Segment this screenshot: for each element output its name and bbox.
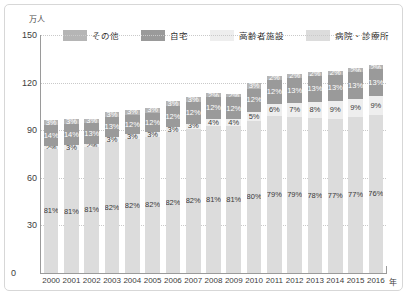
x-tick-2016: 2016 [366,276,387,285]
bar-value-label: 6% [269,106,280,114]
bar-segment-2007-2[interactable]: 12% [186,102,201,123]
bar-value-label: 12% [247,96,262,104]
bar-value-label: 12% [206,104,221,112]
bar-segment-2010-0[interactable]: 80% [247,121,262,273]
x-axis-end-tick [386,266,387,274]
y-tick-90: 90 [7,125,37,135]
bar-column-2010[interactable]: 80%5%12%3% [247,83,262,273]
bar-column-2004[interactable]: 82%3%12%3% [125,110,140,273]
bar-value-label: 81% [44,207,59,215]
bar-column-2011[interactable]: 79%6%12%2% [267,74,282,273]
bar-value-label: 13% [308,85,323,93]
bar-segment-2009-1[interactable]: 4% [226,119,241,126]
bar-segment-2003-0[interactable]: 82% [105,142,120,273]
bar-column-2000[interactable]: 81%2%14%3% [44,120,59,273]
bar-segment-2012-2[interactable]: 13% [287,78,302,104]
bar-segment-2007-0[interactable]: 82% [186,129,201,273]
bar-segment-2013-1[interactable]: 8% [308,102,323,118]
x-tick-2006: 2006 [163,276,184,285]
bar-column-2007[interactable]: 82%3%12%3% [186,97,201,273]
bar-value-label: 13% [105,123,120,131]
plot-area: 81%2%14%3%81%3%14%3%81%2%13%3%82%3%13%3%… [41,35,386,273]
bar-segment-2005-2[interactable]: 12% [145,113,160,133]
x-tick-2005: 2005 [142,276,163,285]
bar-segment-2006-0[interactable]: 82% [166,132,181,273]
bar-segment-2001-2[interactable]: 14% [64,124,79,145]
bar-column-2015[interactable]: 77%9%13%2% [348,68,363,273]
bar-column-2012[interactable]: 79%7%13%2% [287,74,302,273]
bar-segment-2003-2[interactable]: 13% [105,117,120,138]
bar-segment-2011-1[interactable]: 6% [267,104,282,116]
bar-segment-2008-1[interactable]: 4% [206,119,221,126]
bar-column-2008[interactable]: 81%4%12%2% [206,92,221,273]
bar-segment-2002-0[interactable]: 81% [84,147,99,273]
bar-column-2002[interactable]: 81%2%13%3% [84,117,99,273]
bar-value-label: 5% [249,113,260,121]
bar-value-label: 80% [247,193,262,201]
bar-segment-2010-1[interactable]: 5% [247,112,262,121]
bar-segment-2005-0[interactable]: 82% [145,137,160,273]
bar-segment-2016-1[interactable]: 9% [369,96,384,115]
bar-value-label: 13% [287,87,302,95]
bar-value-label: 14% [44,132,59,140]
bar-segment-2000-0[interactable]: 81% [44,149,59,273]
bar-segment-2012-1[interactable]: 7% [287,103,302,117]
bar-column-2003[interactable]: 82%3%13%3% [105,112,120,273]
bar-segment-2011-2[interactable]: 12% [267,80,282,104]
bar-value-label: 13% [84,130,99,138]
bar-segment-2014-2[interactable]: 13% [328,75,343,101]
x-tick-2013: 2013 [305,276,326,285]
y-axis-unit-label: 万人 [29,13,45,24]
bar-column-2014[interactable]: 77%9%13%2% [328,71,343,273]
x-tick-2002: 2002 [81,276,102,285]
bar-value-label: 12% [267,88,282,96]
x-tick-2012: 2012 [284,276,305,285]
bar-value-label: 13% [369,79,384,87]
bar-segment-2004-2[interactable]: 12% [125,115,140,135]
bar-segment-2014-1[interactable]: 9% [328,101,343,119]
bar-segment-2009-2[interactable]: 12% [226,97,241,119]
bar-column-2009[interactable]: 81%4%12%2% [226,92,241,273]
bar-segment-2016-2[interactable]: 13% [369,69,384,96]
bar-segment-2000-2[interactable]: 14% [44,125,59,146]
bar-value-label: 13% [328,84,343,92]
bar-value-label: 81% [84,206,99,214]
bar-segment-2015-0[interactable]: 77% [348,117,363,273]
bar-value-label: 13% [348,82,363,90]
bar-segment-2015-2[interactable]: 13% [348,72,363,98]
x-tick-2003: 2003 [102,276,123,285]
bar-segment-2008-0[interactable]: 81% [206,126,221,273]
bar-value-label: 14% [64,131,79,139]
bar-segment-2008-2[interactable]: 12% [206,97,221,119]
bar-segment-2009-0[interactable]: 81% [226,126,241,273]
bar-segment-2012-0[interactable]: 79% [287,117,302,273]
bar-column-2005[interactable]: 82%3%12%3% [145,108,160,273]
bar-segment-2002-2[interactable]: 13% [84,123,99,143]
bar-segment-2014-0[interactable]: 77% [328,119,343,273]
y-tick-120: 120 [7,78,37,88]
bar-value-label: 78% [308,192,323,200]
bar-segment-2015-1[interactable]: 9% [348,99,363,117]
bar-column-2016[interactable]: 76%9%13%2% [369,65,384,273]
bar-value-label: 81% [226,196,241,204]
bar-column-2006[interactable]: 82%3%12%3% [166,101,181,273]
bar-value-label: 8% [310,106,321,114]
y-tick-150: 150 [7,30,37,40]
bar-value-label: 9% [330,106,341,114]
x-tick-2001: 2001 [61,276,82,285]
chart-card: 万人 その他自宅高齢者施設病院・診療所 81%2%14%3%81%3%14%3%… [4,4,403,291]
bar-segment-2001-0[interactable]: 81% [64,150,79,273]
bar-segment-2016-0[interactable]: 76% [369,115,384,273]
bar-segment-2011-0[interactable]: 79% [267,116,282,273]
bar-column-2013[interactable]: 78%8%13%2% [308,72,323,273]
bar-column-2001[interactable]: 81%3%14%3% [64,119,79,273]
bar-segment-2010-2[interactable]: 12% [247,89,262,112]
bar-segment-2006-2[interactable]: 12% [166,106,181,127]
bar-segment-2004-0[interactable]: 82% [125,139,140,273]
bar-value-label: 77% [348,191,363,199]
bar-value-label: 9% [370,102,381,110]
bar-segment-2013-0[interactable]: 78% [308,118,323,273]
bar-segment-2013-2[interactable]: 13% [308,76,323,102]
y-tick-zero: 0 [11,268,16,278]
bar-value-label: 12% [145,119,160,127]
